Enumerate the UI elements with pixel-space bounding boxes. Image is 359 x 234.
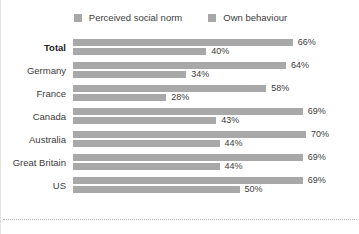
bar-row-own-behaviour[interactable]: 40% bbox=[73, 48, 229, 55]
bars-area: 64% 34% bbox=[73, 59, 359, 82]
bar-value-label: 40% bbox=[211, 47, 229, 56]
bar-row-own-behaviour[interactable]: 28% bbox=[73, 94, 189, 101]
bars-area: 58% 28% bbox=[73, 82, 359, 105]
bars-area: 66% 40% bbox=[73, 36, 359, 59]
legend-item-label: Perceived social norm bbox=[89, 13, 182, 23]
legend-item-own-behaviour[interactable]: Own behaviour bbox=[208, 13, 287, 23]
bar-row-perceived-social-norm[interactable]: 58% bbox=[73, 85, 289, 92]
bar-value-label: 58% bbox=[271, 84, 289, 93]
category-label-total: Total bbox=[1, 43, 73, 53]
bar-value-label: 64% bbox=[291, 61, 309, 70]
bar-rect bbox=[73, 39, 293, 46]
bar-group: Great Britain 69% 44% bbox=[1, 151, 359, 174]
bar-row-perceived-social-norm[interactable]: 69% bbox=[73, 108, 326, 115]
bar-row-perceived-social-norm[interactable]: 64% bbox=[73, 62, 309, 69]
bar-rect bbox=[73, 48, 206, 55]
category-label-france: France bbox=[1, 89, 73, 99]
bar-value-label: 69% bbox=[308, 176, 326, 185]
bar-chart-figure: Perceived social norm Own behaviour Tota… bbox=[0, 0, 359, 234]
bar-row-perceived-social-norm[interactable]: 66% bbox=[73, 39, 316, 46]
bar-rect bbox=[73, 94, 166, 101]
footer-divider bbox=[3, 219, 357, 220]
bar-rect bbox=[73, 140, 220, 147]
bar-rect bbox=[73, 62, 286, 69]
bar-value-label: 50% bbox=[245, 185, 263, 194]
bar-value-label: 44% bbox=[225, 162, 243, 171]
bar-value-label: 70% bbox=[311, 130, 329, 139]
category-label-australia: Australia bbox=[1, 135, 73, 145]
category-label-germany: Germany bbox=[1, 66, 73, 76]
bar-group: France 58% 28% bbox=[1, 82, 359, 105]
category-label-great-britain: Great Britain bbox=[1, 158, 73, 168]
bar-rect bbox=[73, 85, 266, 92]
bar-value-label: 43% bbox=[221, 116, 239, 125]
bar-rect bbox=[73, 131, 306, 138]
bar-rect bbox=[73, 186, 240, 193]
category-label-canada: Canada bbox=[1, 112, 73, 122]
legend-swatch-icon bbox=[208, 14, 216, 22]
bar-row-own-behaviour[interactable]: 43% bbox=[73, 117, 239, 124]
bar-value-label: 69% bbox=[308, 153, 326, 162]
bar-rect bbox=[73, 108, 303, 115]
bar-row-perceived-social-norm[interactable]: 69% bbox=[73, 154, 326, 161]
legend-item-perceived-social-norm[interactable]: Perceived social norm bbox=[74, 13, 182, 23]
bar-value-label: 34% bbox=[191, 70, 209, 79]
bar-row-own-behaviour[interactable]: 44% bbox=[73, 140, 243, 147]
bar-rect bbox=[73, 154, 303, 161]
bar-row-perceived-social-norm[interactable]: 69% bbox=[73, 177, 326, 184]
bar-group: US 69% 50% bbox=[1, 174, 359, 197]
bar-rect bbox=[73, 163, 220, 170]
legend-swatch-icon bbox=[74, 14, 82, 22]
bars-area: 69% 50% bbox=[73, 174, 359, 197]
bar-row-perceived-social-norm[interactable]: 70% bbox=[73, 131, 329, 138]
bar-value-label: 66% bbox=[298, 38, 316, 47]
bar-row-own-behaviour[interactable]: 50% bbox=[73, 186, 263, 193]
chart-plot-area: Total 66% 40% Germany 64% bbox=[1, 36, 359, 212]
bar-rect bbox=[73, 177, 303, 184]
bar-value-label: 69% bbox=[308, 107, 326, 116]
legend-item-label: Own behaviour bbox=[223, 13, 287, 23]
bar-group: Germany 64% 34% bbox=[1, 59, 359, 82]
bar-group: Canada 69% 43% bbox=[1, 105, 359, 128]
bar-group: Total 66% 40% bbox=[1, 36, 359, 59]
bars-area: 69% 43% bbox=[73, 105, 359, 128]
bars-area: 70% 44% bbox=[73, 128, 359, 151]
bar-row-own-behaviour[interactable]: 34% bbox=[73, 71, 209, 78]
bar-rect bbox=[73, 71, 186, 78]
chart-legend: Perceived social norm Own behaviour bbox=[1, 10, 359, 26]
category-label-us: US bbox=[1, 181, 73, 191]
bar-row-own-behaviour[interactable]: 44% bbox=[73, 163, 243, 170]
bar-value-label: 44% bbox=[225, 139, 243, 148]
bar-value-label: 28% bbox=[171, 93, 189, 102]
bar-rect bbox=[73, 117, 216, 124]
bars-area: 69% 44% bbox=[73, 151, 359, 174]
bar-group: Australia 70% 44% bbox=[1, 128, 359, 151]
